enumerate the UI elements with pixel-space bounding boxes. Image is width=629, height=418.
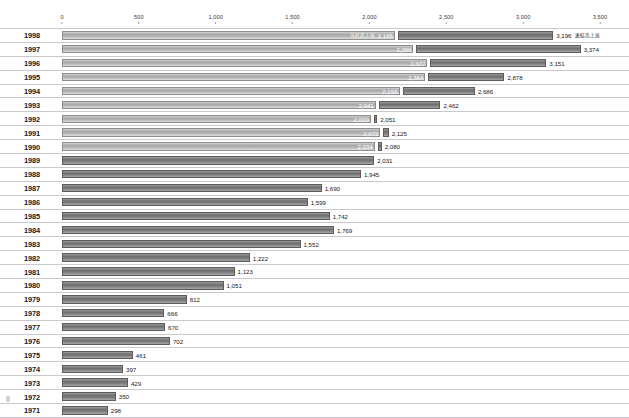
bar-consolidated-sales xyxy=(374,115,377,123)
bar-consolidated-sales xyxy=(62,392,116,400)
chart-row: 1978666 xyxy=(0,306,629,320)
axis-tick-label: 500 xyxy=(134,14,144,24)
bar-consolidated-value-label: 2,051 xyxy=(380,116,395,123)
axis-tick-mark xyxy=(523,22,524,25)
row-bar-area: 1,123 xyxy=(0,265,629,278)
bar-company-value-label: 2,196 xyxy=(382,88,397,95)
bar-consolidated-value-label: 429 xyxy=(131,380,141,387)
row-bar-area: 2,2863,374 xyxy=(0,43,629,56)
row-bar-area: 2,0412,462 xyxy=(0,98,629,111)
bar-consolidated-sales xyxy=(62,156,374,164)
axis-tick-mark xyxy=(215,22,216,25)
chart-row: 19962,3773,151 xyxy=(0,56,629,70)
bar-consolidated-sales xyxy=(379,101,441,109)
chart-row: 1979812 xyxy=(0,292,629,306)
axis-tick-label: 0 xyxy=(60,14,63,24)
bar-consolidated-sales xyxy=(403,87,475,95)
row-bar-area: 461 xyxy=(0,348,629,361)
bar-company-sales xyxy=(62,73,425,81)
bar-company-sales xyxy=(62,45,413,53)
chart-row: 19942,1962,686 xyxy=(0,84,629,98)
axis-tick-text: 1,000 xyxy=(208,14,223,20)
bar-consolidated-value-label: 1,051 xyxy=(227,282,242,289)
chart-row: 19841,769 xyxy=(0,222,629,236)
chart-row: 19902,0342,080 xyxy=(0,139,629,153)
corner-mark xyxy=(6,396,10,402)
row-bar-area: 1,051 xyxy=(0,279,629,292)
chart-row: 19851,742 xyxy=(0,209,629,223)
bar-consolidated-value-label: 1,599 xyxy=(311,199,326,206)
row-bar-area: 1,222 xyxy=(0,251,629,264)
bar-consolidated-value-label: 1,222 xyxy=(253,255,268,262)
chart-row: 19892,031 xyxy=(0,153,629,167)
bar-consolidated-value-label: 298 xyxy=(111,407,121,414)
bar-consolidated-value-label: 1,690 xyxy=(325,185,340,192)
bar-consolidated-sales xyxy=(62,267,235,275)
chart-row: 1973429 xyxy=(0,375,629,389)
row-bar-area: 1,690 xyxy=(0,182,629,195)
axis-tick-mark xyxy=(600,22,601,25)
x-axis: 05001,0001,5002,0002,5003,0003,500 xyxy=(0,14,629,28)
series-legend-company: 当社売上高 xyxy=(350,32,375,38)
bar-consolidated-value-label: 1,552 xyxy=(304,241,319,248)
bar-consolidated-sales xyxy=(62,323,165,331)
bar-consolidated-value-label: 702 xyxy=(173,338,183,345)
row-bar-area: 1,552 xyxy=(0,237,629,250)
row-bar-area: 670 xyxy=(0,321,629,334)
bar-consolidated-sales xyxy=(62,198,308,206)
bar-consolidated-sales xyxy=(383,128,388,136)
bar-consolidated-value-label: 461 xyxy=(136,352,146,359)
row-bar-area: 1,769 xyxy=(0,223,629,236)
axis-tick-mark xyxy=(369,22,370,25)
row-bar-area: 2,031 xyxy=(0,154,629,167)
row-bar-area: 2,0342,080 xyxy=(0,140,629,153)
chart-row: 19922,0092,051 xyxy=(0,111,629,125)
bar-consolidated-sales xyxy=(398,31,553,39)
bar-company-sales xyxy=(62,87,400,95)
bar-consolidated-sales xyxy=(62,351,133,359)
axis-tick-text: 1,500 xyxy=(285,14,300,20)
chart-row: 1974397 xyxy=(0,361,629,375)
bar-consolidated-value-label: 2,031 xyxy=(377,157,392,164)
axis-tick-label: 3,000 xyxy=(516,14,531,24)
bar-consolidated-value-label: 2,080 xyxy=(385,143,400,150)
bar-consolidated-sales xyxy=(62,309,164,317)
row-bar-area: 1,945 xyxy=(0,168,629,181)
bar-consolidated-sales xyxy=(62,240,301,248)
row-bar-area: 1,742 xyxy=(0,210,629,223)
bar-consolidated-sales xyxy=(416,45,580,53)
bar-consolidated-sales xyxy=(378,142,382,150)
bar-consolidated-sales xyxy=(428,73,504,81)
row-bar-area: 2,0092,051 xyxy=(0,112,629,125)
bar-consolidated-sales xyxy=(62,378,128,386)
bar-consolidated-value-label: 2,686 xyxy=(478,88,493,95)
bar-consolidated-value-label: 1,123 xyxy=(238,268,253,275)
row-bar-area: 2,166当社売上高3,196連結売上高 xyxy=(0,29,629,42)
row-bar-area: 2,3642,878 xyxy=(0,71,629,84)
axis-tick-mark xyxy=(62,22,63,25)
bar-company-value-label: 2,364 xyxy=(408,74,423,81)
bar-consolidated-value-label: 2,462 xyxy=(443,102,458,109)
bar-company-value-label: 2,286 xyxy=(396,46,411,53)
row-bar-area: 702 xyxy=(0,335,629,348)
bar-consolidated-value-label: 2,125 xyxy=(392,130,407,137)
row-bar-area: 429 xyxy=(0,376,629,389)
chart-row: 19871,690 xyxy=(0,181,629,195)
bar-company-sales xyxy=(62,101,376,109)
bar-consolidated-value-label: 1,769 xyxy=(337,227,352,234)
bar-consolidated-sales xyxy=(62,365,123,373)
row-bar-area: 2,0722,125 xyxy=(0,126,629,139)
row-bar-area: 2,1962,686 xyxy=(0,85,629,98)
chart-row: 1972350 xyxy=(0,389,629,403)
bar-company-value-label: 2,072 xyxy=(363,130,378,137)
axis-tick-text: 0 xyxy=(60,14,63,20)
bar-consolidated-sales xyxy=(62,184,322,192)
bar-consolidated-value-label: 350 xyxy=(119,393,129,400)
bar-consolidated-sales xyxy=(62,253,250,261)
axis-tick-text: 3,500 xyxy=(593,14,608,20)
chart-row: 1976702 xyxy=(0,334,629,348)
axis-tick-mark xyxy=(138,22,139,25)
chart-row: 19932,0412,462 xyxy=(0,97,629,111)
bar-consolidated-value-label: 3,196 xyxy=(556,32,571,39)
